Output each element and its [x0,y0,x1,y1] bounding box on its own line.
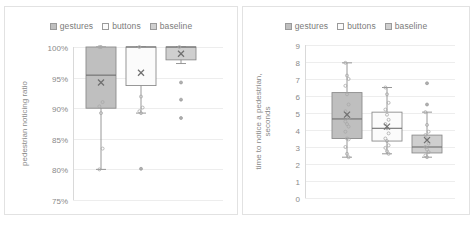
y-tick-label: 6 [296,93,301,102]
y-tick-label: 0 [296,195,301,204]
y-tick-label: 5 [296,110,301,119]
y-tick-label: 75% [52,197,68,206]
chart-panel-pedestrian-noticing-ratio: gestures buttons baseline 100%95%90%85%8… [4,6,238,215]
plot-area-right: 9876543210time to notice a pedestrian,se… [243,7,469,214]
boxplot-svg-left: 100%95%90%85%80%75%pedestrian noticing r… [5,7,237,214]
outlier-point [180,81,183,84]
y-tick-label: 4 [296,127,301,136]
boxplot-svg-right: 9876543210time to notice a pedestrian,se… [243,7,469,214]
y-tick-label: 1 [296,178,301,187]
y-tick-label: 80% [52,166,68,175]
data-point [344,84,347,87]
y-tick-label: 9 [296,42,301,51]
y-tick-label: 100% [48,44,68,53]
boxplot-gestures [86,46,116,171]
outlier-point [180,98,183,101]
y-tick-label: 90% [52,105,68,114]
data-point [101,147,104,150]
y-tick-label: 8 [296,59,301,68]
y-axis-title: seconds [263,107,272,137]
outlier-point [140,167,143,170]
outlier-point [180,116,183,119]
y-axis-title: pedestrian noticing ratio [20,80,29,165]
boxplot-buttons [126,46,156,171]
box [86,47,116,108]
data-point [384,108,387,111]
box [126,47,156,86]
y-tick-label: 3 [296,144,301,153]
outlier-point [426,103,429,106]
boxplot-gestures [332,61,362,158]
data-point [387,101,390,104]
y-tick-label: 85% [52,136,68,145]
y-tick-label: 7 [296,76,301,85]
outlier-point [426,82,429,85]
chart-panel-time-to-notice-pedestrian: gestures buttons baseline 9876543210time… [242,6,470,215]
plot-area-left: 100%95%90%85%80%75%pedestrian noticing r… [5,7,237,214]
figure-two-boxplots: gestures buttons baseline 100%95%90%85%8… [0,0,476,225]
boxplot-baseline [412,82,442,159]
y-tick-label: 95% [52,75,68,84]
y-axis-title: time to notice a pedestrian, [254,73,263,169]
data-point [387,144,390,147]
y-tick-label: 2 [296,161,301,170]
